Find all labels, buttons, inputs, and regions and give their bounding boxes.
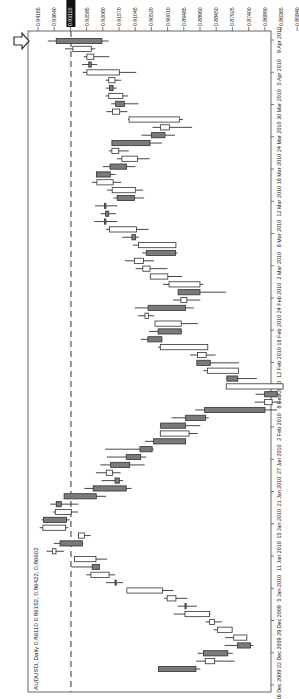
bullish-candle [155,321,198,326]
bullish-candle [65,46,95,51]
bullish-candle [160,431,197,436]
bullish-candle [226,384,283,389]
bearish-candle [82,62,97,67]
price-tick-label: 0.87925 [229,7,235,26]
date-tick-label: 12 Feb 2010 [276,347,282,377]
bearish-candle [96,172,116,177]
bullish-candle [84,54,110,59]
bullish-candle [106,93,128,98]
price-tick-label: 0.91570 [116,7,122,26]
bearish-candle [95,203,117,208]
date-tick-label: 16 Dec 2009 [276,670,282,699]
date-tick-label: 12 Mar 2010 [276,186,282,216]
bearish-candle [161,423,201,428]
current-price-arrow-icon [14,33,29,49]
date-axis: 9 Apr 20105 Apr 201030 Mar 201024 Mar 20… [271,27,282,699]
bullish-candle [96,470,121,475]
date-tick-label: 11 Jan 2010 [276,541,282,570]
price-tick-label: 0.85840 [294,7,299,26]
bearish-candle [142,133,175,138]
bullish-candle [117,156,149,161]
bearish-candle [72,564,100,569]
bullish-candle [206,619,222,624]
bullish-candle [74,557,107,562]
bearish-candle [100,462,144,467]
bearish-candle [198,651,233,656]
bullish-candle [158,345,208,350]
bearish-candle [111,101,138,106]
bearish-candle [84,486,131,491]
bullish-candle [152,125,192,130]
bearish-candle [122,235,139,240]
bullish-candle [92,180,121,185]
bearish-candle [112,140,162,145]
date-tick-label: 18 Mar 2010 [276,154,282,184]
bullish-candle [164,596,187,601]
date-tick-label: 9 Apr 2010 [276,27,282,53]
price-tick-label: 0.92585 [84,7,90,26]
bearish-candle [142,250,177,255]
price-tick-label: 0.89485 [181,7,187,26]
date-tick-label: 21 Jan 2010 [276,477,282,507]
price-tick-label: 0.94165 [35,7,41,26]
bearish-candle [50,502,78,507]
bullish-candle [173,297,200,302]
bullish-candle [190,352,216,357]
bearish-candle [113,195,144,200]
price-tick-label: 0.92060 [100,7,106,26]
bearish-candle [145,439,186,444]
chart-title-text: AUDUSD, Daily 0.86110 0.86152, 0.86422, … [32,547,39,690]
date-tick-label: 24 Mar 2010 [276,122,282,152]
bearish-candle [64,494,106,499]
bullish-candle [47,549,64,554]
bullish-candle [133,243,176,248]
bearish-candle [106,86,117,91]
bearish-candle [42,517,70,522]
date-tick-label: 24 Feb 2010 [276,283,282,313]
chart-canvas: 0.941650.936400.931100.925850.920600.915… [0,0,299,699]
date-tick-label: 15 Jan 2010 [276,509,282,539]
date-tick-label: 8 Mar 2010 [276,220,282,247]
bullish-candle [163,282,203,287]
date-tick-label: 27 Jan 2010 [276,444,282,474]
date-tick-label: 5 Apr 2010 [276,59,282,85]
bullish-candle [128,117,183,122]
price-axis: 0.941650.936400.931100.925850.920600.915… [35,0,299,31]
bearish-candle [135,305,194,310]
price-tick-label: 0.86365 [278,7,284,26]
bullish-candle [125,258,154,263]
bearish-candle [256,392,281,397]
bullish-candle [106,227,149,232]
bearish-candle [101,211,116,216]
bearish-candle [48,38,109,43]
date-tick-label: 5 Jan 2010 [276,575,282,602]
candles [40,38,283,671]
price-tick-label: 0.86890 [262,7,268,26]
bullish-candle [203,368,238,373]
bearish-candle [226,376,257,381]
bullish-candle [86,572,115,577]
bearish-candle [105,447,153,452]
bullish-candle [40,525,68,530]
bearish-candle [197,360,239,365]
price-tick-label: 0.90010 [165,7,171,26]
date-tick-label: 2 Mar 2010 [276,252,282,279]
bullish-candle [109,148,129,153]
bearish-candle [103,164,135,169]
price-tick-label: 0.88450 [213,7,219,26]
bearish-candle [54,541,83,546]
bullish-candle [78,533,91,538]
bullish-candle [106,78,122,83]
date-tick-label: 30 Mar 2010 [276,89,282,119]
bullish-candle [127,588,174,593]
bearish-candle [141,337,162,342]
bullish-candle [107,188,143,193]
bullish-candle [225,635,247,640]
bullish-candle [53,509,78,514]
price-tick-label: 0.90520 [148,7,154,26]
bearish-candle [225,643,254,648]
bullish-candle [214,627,232,632]
price-tick-label: 0.87400 [246,7,252,26]
bullish-candle [150,274,182,279]
bearish-candle [178,290,226,295]
